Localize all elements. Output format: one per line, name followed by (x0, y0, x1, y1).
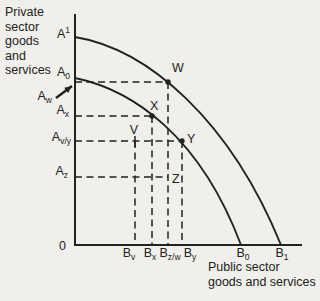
y-axis-label-Av-y: Av/y (52, 130, 72, 146)
point-label-W: W (172, 61, 184, 75)
origin-label: 0 (59, 239, 66, 253)
point-W (165, 79, 170, 84)
point-label-V: V (130, 123, 139, 137)
y-axis-label-A1: A1 (57, 25, 70, 41)
x-axis-label-By: By (184, 246, 197, 262)
y-axis-label-Az: Az (55, 164, 68, 180)
point-label-X: X (150, 99, 159, 113)
x-axis-title: Public sector goods and services (208, 260, 316, 289)
x-axis-label-Bz-w: Bz/w (159, 246, 181, 262)
y-axis-label-Aw: Aw (38, 89, 53, 105)
x-axis-label-Bv: Bv (123, 246, 136, 262)
textbook-figure: Private sector goods and services WXVYZA… (0, 0, 320, 301)
y-axis-label-A0: A0 (57, 65, 70, 81)
point-Y (179, 138, 184, 143)
x-axis-label-Bx: Bx (144, 246, 157, 262)
y-axis-label-Ax: Ax (56, 103, 69, 119)
point-label-Y: Y (187, 132, 196, 146)
point-label-Z: Z (172, 172, 180, 186)
point-X (149, 113, 154, 118)
ppf-diagram: WXVYZA1A0AwAxAv/yAzBvBxBz/wByB0B10 (0, 0, 320, 301)
